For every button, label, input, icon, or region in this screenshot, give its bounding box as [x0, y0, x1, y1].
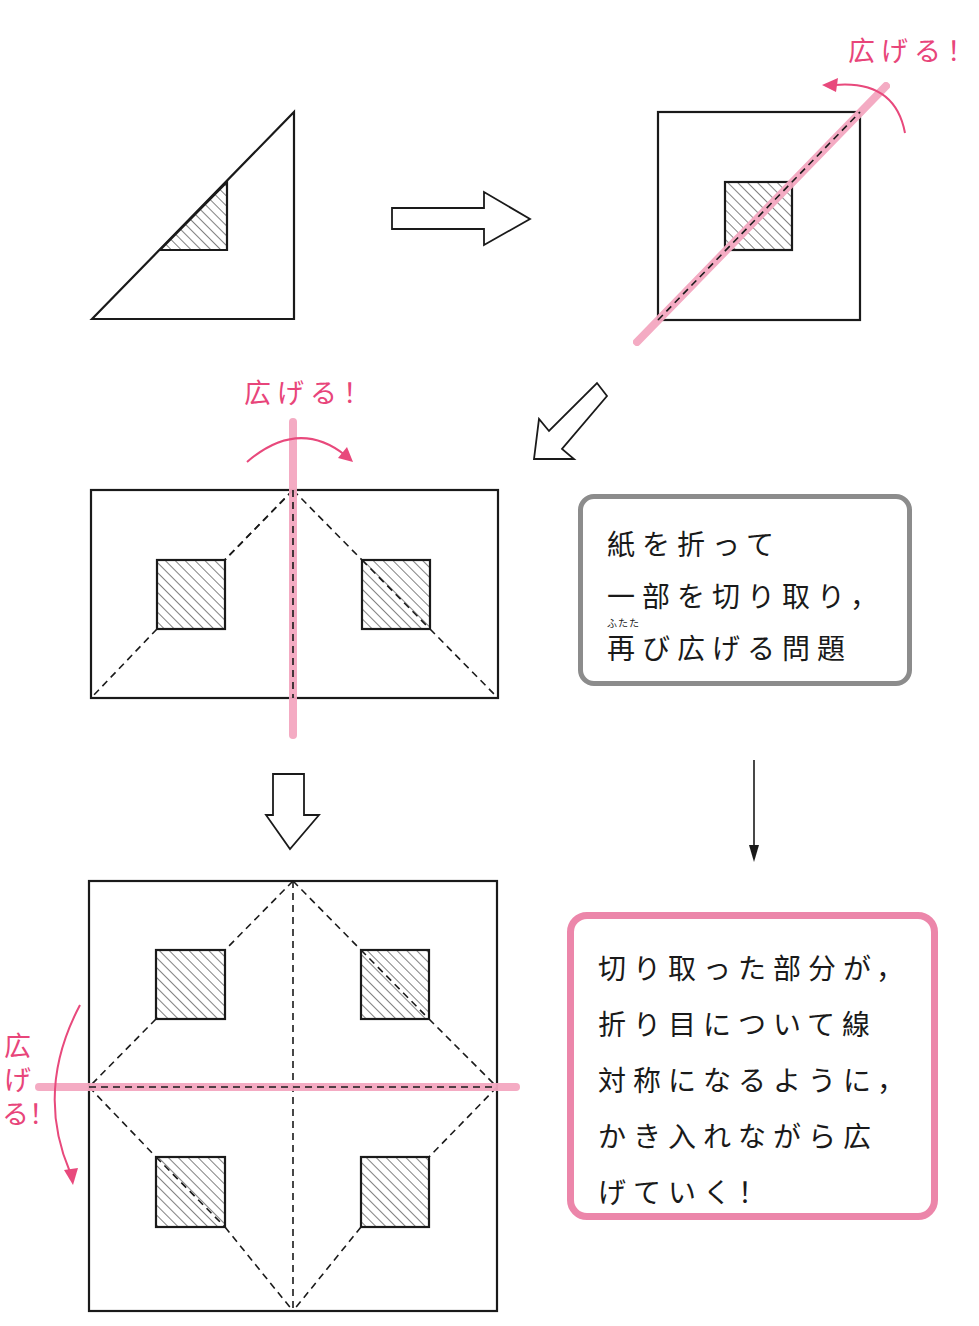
hatched-cutout-bottom-right [361, 1157, 429, 1227]
problem-type-box: 紙を折って 一部を切り取り， ふたた 再び広げる問題 [578, 494, 912, 686]
step4-square [39, 881, 516, 1311]
step1-folded-triangle [92, 112, 294, 319]
right-arrow-icon [392, 192, 530, 245]
problem-line-1: 紙を折って [607, 523, 781, 563]
step2-square [637, 78, 905, 342]
problem-line-3: 再び広げる問題 [607, 627, 852, 667]
hatched-cutout-top-left [156, 950, 225, 1019]
tip-line-5: げていく！ [598, 1171, 773, 1211]
step3-rectangle [91, 422, 498, 735]
arrowhead-icon [64, 1168, 78, 1185]
down-left-arrow-icon [534, 383, 607, 459]
hatched-cutout [160, 182, 227, 250]
tip-box: 切り取った部分が， 折り目について線 対称になるように， かき入れながら広 げて… [567, 912, 938, 1220]
arrowhead-icon [338, 447, 353, 462]
problem-line-2: 一部を切り取り， [607, 575, 885, 615]
tip-line-1: 切り取った部分が， [598, 947, 911, 987]
down-arrowhead-icon [749, 845, 759, 862]
down-arrow-icon [266, 774, 319, 849]
unfold-label-2: 広げる！ [244, 372, 376, 411]
tip-line-2: 折り目について線 [598, 1003, 877, 1043]
unfold-label-3: 広げる！ [2, 1030, 32, 1132]
hatched-cutout-left [157, 560, 225, 629]
arrowhead-icon [822, 78, 838, 92]
tip-line-3: 対称になるように， [598, 1059, 912, 1099]
tip-line-4: かき入れながら広 [598, 1115, 878, 1155]
unfold-label-1: 広げる！ [848, 30, 979, 69]
